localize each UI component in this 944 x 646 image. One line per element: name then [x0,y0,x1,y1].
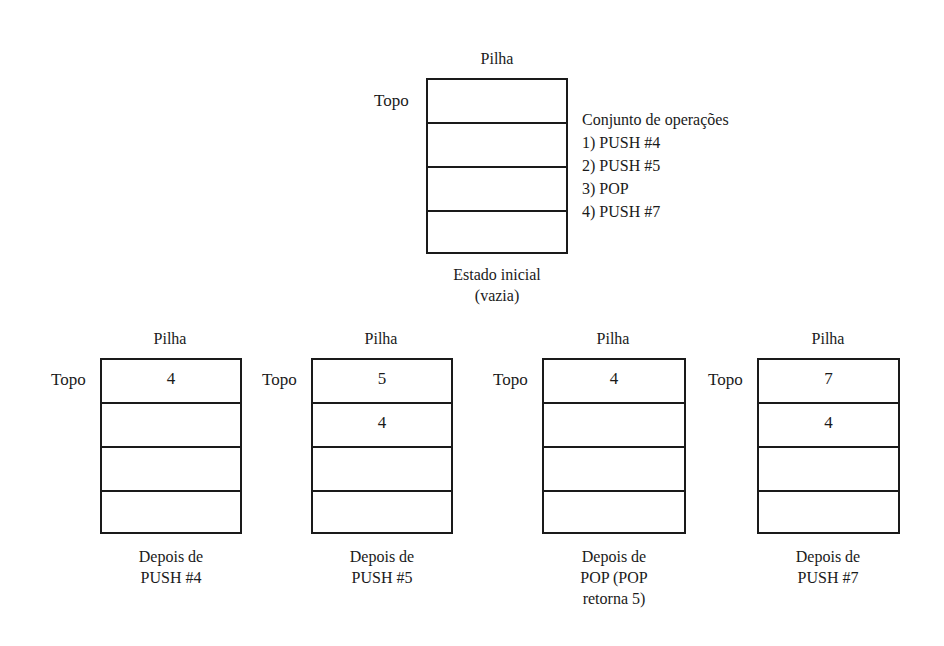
stack-cell [544,404,684,448]
caption-line: retorna 5) [534,588,694,609]
caption-line: Depois de [91,546,251,567]
caption-line: Estado inicial [417,264,577,285]
stack-cell [102,492,240,536]
stack-after-push-7: 7 4 [757,358,900,534]
stack-cell: 4 [544,360,684,404]
caption-line: Depois de [534,546,694,567]
stack-cell: 5 [313,360,451,404]
caption-line: PUSH #5 [302,567,462,588]
caption-line: PUSH #4 [91,567,251,588]
stack-caption: Depois de PUSH #5 [302,546,462,588]
stack-after-push-4: 4 [100,358,242,534]
stack-cell [428,212,566,256]
operations-list: Conjunto de operações 1) PUSH #4 2) PUSH… [582,108,729,223]
caption-line: (vazia) [417,285,577,306]
operation-item: 2) PUSH #5 [582,154,729,177]
stack-after-pop: 4 [542,358,686,534]
stack-title: Pilha [100,330,240,348]
initial-stack [426,78,568,254]
operations-heading: Conjunto de operações [582,108,729,131]
stack-title: Pilha [758,330,898,348]
operation-item: 4) PUSH #7 [582,200,729,223]
stack-cell [544,448,684,492]
caption-line: PUSH #7 [748,567,908,588]
initial-top-label: Topo [374,91,409,111]
stack-top-label: Topo [493,370,528,390]
stack-cell [428,124,566,168]
stack-cell: 4 [759,404,898,448]
stack-cell [313,492,451,536]
stack-cell [102,404,240,448]
initial-stack-title: Pilha [427,50,567,68]
stack-cell: 7 [759,360,898,404]
stack-cell [428,80,566,124]
stack-top-label: Topo [51,370,86,390]
stack-cell [759,448,898,492]
stack-cell [428,168,566,212]
stack-cell [759,492,898,536]
caption-line: Depois de [302,546,462,567]
caption-line: POP (POP [534,567,694,588]
stack-top-label: Topo [708,370,743,390]
stack-caption: Depois de PUSH #7 [748,546,908,588]
stack-caption: Depois de POP (POP retorna 5) [534,546,694,609]
operation-item: 1) PUSH #4 [582,131,729,154]
stack-title: Pilha [311,330,451,348]
stack-top-label: Topo [262,370,297,390]
stack-cell [544,492,684,536]
caption-line: Depois de [748,546,908,567]
stack-caption: Depois de PUSH #4 [91,546,251,588]
initial-caption: Estado inicial (vazia) [417,264,577,306]
stack-after-push-5: 5 4 [311,358,453,534]
stack-cell: 4 [313,404,451,448]
stack-cell: 4 [102,360,240,404]
stack-cell [313,448,451,492]
operation-item: 3) POP [582,177,729,200]
stack-title: Pilha [543,330,683,348]
stack-cell [102,448,240,492]
